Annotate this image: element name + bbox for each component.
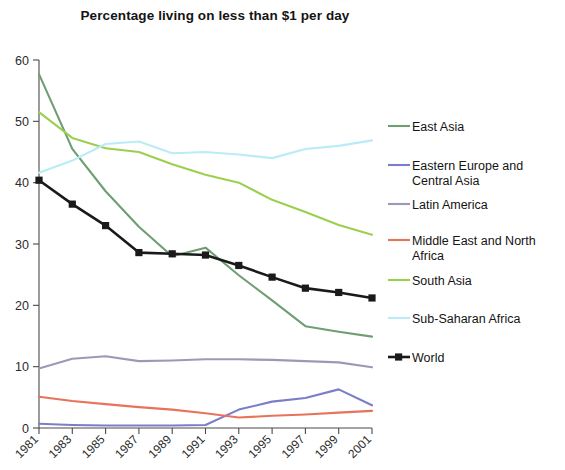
- x-tick-label: 1987: [112, 432, 141, 461]
- legend-label-sub-saharan-africa: Sub-Saharan Africa: [412, 312, 520, 326]
- y-tick-label: 20: [15, 299, 29, 313]
- legend-label-south-asia: South Asia: [412, 274, 472, 288]
- x-axis: 1981198319851987198919911993199519971999…: [12, 428, 374, 461]
- series-line-middle-east-and-north-africa: [39, 397, 372, 418]
- series-marker-world: [368, 294, 375, 301]
- series-line-eastern-europe-and-central-asia: [39, 389, 372, 425]
- legend-marker-world: [395, 353, 402, 360]
- series-line-world: [39, 180, 372, 298]
- chart-legend: East AsiaEastern Europe andCentral AsiaL…: [388, 120, 536, 365]
- x-tick-label: 1985: [79, 432, 108, 461]
- series-line-sub-saharan-africa: [39, 140, 372, 173]
- x-tick-label: 1991: [179, 432, 208, 461]
- series-marker-world: [335, 289, 342, 296]
- series-marker-world: [169, 250, 176, 257]
- y-tick-label: 60: [15, 54, 29, 68]
- chart-plot-area: 0102030405060 19811983198519871989199119…: [0, 0, 565, 470]
- series-marker-world: [102, 222, 109, 229]
- series-line-latin-america: [39, 356, 372, 368]
- series-marker-world: [269, 274, 276, 281]
- legend-label-middle-east-and-north-africa: Middle East and NorthAfrica: [412, 234, 536, 263]
- x-tick-label: 1999: [312, 432, 341, 461]
- series-marker-world: [302, 285, 309, 292]
- legend-label-world: World: [412, 351, 444, 365]
- data-series-group: [35, 74, 375, 425]
- series-marker-world: [235, 262, 242, 269]
- legend-label-east-asia: East Asia: [412, 120, 464, 134]
- x-tick-label: 2001: [345, 432, 374, 461]
- y-tick-label: 0: [22, 422, 29, 436]
- y-tick-label: 50: [15, 115, 29, 129]
- series-marker-world: [202, 251, 209, 258]
- series-marker-world: [35, 177, 42, 184]
- x-tick-label: 1993: [212, 432, 241, 461]
- chart-container: Percentage living on less than $1 per da…: [0, 0, 565, 470]
- legend-label-eastern-europe-and-central-asia: Eastern Europe andCentral Asia: [412, 159, 523, 188]
- x-tick-label: 1995: [245, 432, 274, 461]
- y-axis: 0102030405060: [15, 54, 39, 436]
- x-tick-label: 1989: [146, 432, 175, 461]
- x-tick-label: 1981: [12, 432, 41, 461]
- y-tick-label: 10: [15, 360, 29, 374]
- series-line-east-asia: [39, 74, 372, 337]
- legend-label-latin-america: Latin America: [412, 198, 488, 212]
- x-tick-label: 1983: [46, 432, 75, 461]
- series-marker-world: [135, 249, 142, 256]
- series-marker-world: [69, 201, 76, 208]
- x-tick-label: 1997: [279, 432, 308, 461]
- y-tick-label: 40: [15, 176, 29, 190]
- y-tick-label: 30: [15, 238, 29, 252]
